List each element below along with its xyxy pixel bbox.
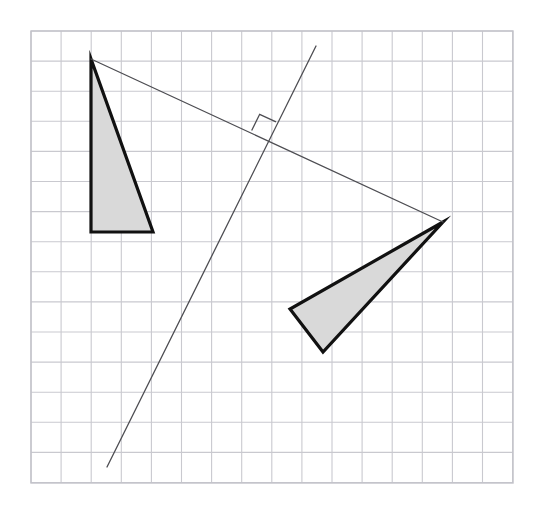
geometry-canvas: Rotation of a triangle about a point wit… bbox=[0, 0, 540, 515]
canvas-background bbox=[0, 0, 540, 515]
geometry-diagram: Rotation of a triangle about a point wit… bbox=[0, 0, 540, 515]
